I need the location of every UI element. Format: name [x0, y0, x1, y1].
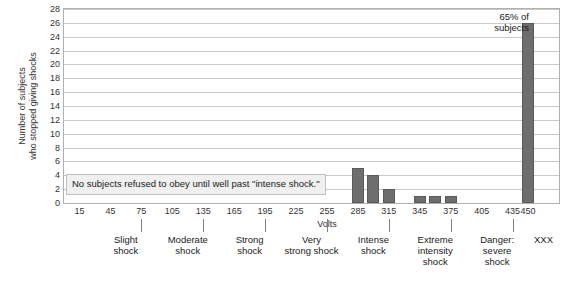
category-label-line: Slight [113, 234, 138, 245]
x-axis-tick-label: 255 [319, 206, 334, 216]
bar [445, 196, 457, 203]
category-label-line: Extreme [418, 234, 453, 245]
category-label-line: shock [168, 245, 208, 256]
category-tick-mark [203, 219, 204, 232]
y-axis-tick-label: 14 [50, 102, 60, 111]
x-axis-tick-label: 435 [505, 206, 520, 216]
y-axis-tick-label: 0 [55, 199, 60, 208]
category-label: Slightshock [113, 234, 138, 256]
category-tick-marks [63, 219, 560, 233]
category-label-line: Intense [358, 234, 389, 245]
y-axis-tick-label: 16 [50, 88, 60, 97]
category-label-line: shock [418, 256, 453, 267]
category-label-line: severe [480, 245, 514, 256]
x-axis-tick-label: 75 [136, 206, 146, 216]
category-label-line: XXX [534, 234, 553, 245]
x-axis-tick-labels: 1545751051351651952252552853153453754054… [63, 206, 560, 220]
y-axis-tick-label: 10 [50, 129, 60, 138]
category-label-line: Strong [236, 234, 264, 245]
no-refusal-annotation: No subjects refused to obey until well p… [66, 174, 326, 195]
category-tick-mark [265, 219, 266, 232]
category-label-line: strong shock [285, 245, 339, 256]
y-axis-tick-label: 20 [50, 60, 60, 69]
category-label: XXX [534, 234, 553, 245]
category-label: Verystrong shock [285, 234, 339, 256]
bar [352, 168, 364, 203]
category-labels: SlightshockModerateshockStrongshockVerys… [63, 234, 560, 284]
x-axis-tick-label: 315 [381, 206, 396, 216]
x-axis-tick-label: 15 [74, 206, 84, 216]
x-axis-tick-label: 105 [165, 206, 180, 216]
category-tick-mark [389, 219, 390, 232]
y-axis-title-line-2: who stopped giving shocks [28, 52, 39, 160]
y-axis-title-line-1: Number of subjects [17, 52, 28, 160]
x-axis-tick-label: 225 [289, 206, 304, 216]
y-axis-tick-label: 6 [55, 157, 60, 166]
category-label-line: Danger: [480, 234, 514, 245]
y-axis-tick-label: 2 [55, 185, 60, 194]
category-label: Strongshock [236, 234, 264, 256]
bar [414, 196, 426, 203]
category-label-line: shock [358, 245, 389, 256]
percent-annotation-line-2: subjects [494, 22, 529, 33]
bar [522, 23, 534, 203]
bar [429, 196, 441, 203]
x-axis-tick-label: 135 [196, 206, 211, 216]
category-label-line: shock [113, 245, 138, 256]
category-tick-mark [513, 219, 514, 232]
shock-obedience-bar-chart: Number of subjects who stopped giving sh… [0, 0, 570, 286]
category-label-line: shock [236, 245, 264, 256]
bar [367, 175, 379, 203]
category-tick-mark [141, 219, 142, 232]
y-axis-tick-label: 24 [50, 32, 60, 41]
plot-area: No subjects refused to obey until well p… [63, 8, 560, 204]
y-axis-tick-label: 12 [50, 115, 60, 124]
y-axis-tick-label: 4 [55, 171, 60, 180]
category-label-line: Very [285, 234, 339, 245]
y-axis-tick-label: 28 [50, 5, 60, 14]
category-label-line: Moderate [168, 234, 208, 245]
percent-annotation: 65% of subjects [494, 11, 529, 33]
x-axis-tick-label: 405 [474, 206, 489, 216]
category-label: Moderateshock [168, 234, 208, 256]
category-label-line: shock [480, 256, 514, 267]
bar [383, 189, 395, 203]
x-axis-tick-label: 165 [227, 206, 242, 216]
y-axis-tick-label: 8 [55, 143, 60, 152]
category-label: Danger:severeshock [480, 234, 514, 267]
category-label-line: intensity [418, 245, 453, 256]
x-axis-tick-label: 195 [258, 206, 273, 216]
x-axis-tick-label: 345 [412, 206, 427, 216]
category-label: Extremeintensityshock [418, 234, 453, 267]
category-label: Intenseshock [358, 234, 389, 256]
category-tick-mark [451, 219, 452, 232]
x-axis-tick-label: 45 [105, 206, 115, 216]
x-axis-tick-label: 375 [443, 206, 458, 216]
y-axis-tick-labels: 0246810121416182022242628 [40, 8, 60, 204]
percent-annotation-line-1: 65% of [494, 11, 529, 22]
y-axis-tick-label: 26 [50, 18, 60, 27]
y-axis-tick-label: 22 [50, 46, 60, 55]
y-axis-tick-label: 18 [50, 74, 60, 83]
x-axis-tick-label: 285 [350, 206, 365, 216]
category-tick-mark [327, 219, 328, 232]
x-axis-tick-label: 450 [521, 206, 536, 216]
